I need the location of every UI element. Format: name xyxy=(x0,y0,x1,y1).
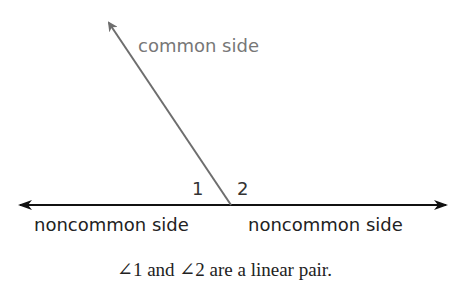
angle-2-label: 2 xyxy=(237,178,248,199)
linear-pair-diagram: common side 1 2 noncommon side noncommon… xyxy=(0,0,465,285)
common-side-label: common side xyxy=(138,35,259,56)
angle-1-label: 1 xyxy=(192,178,203,199)
caption: ∠1 and ∠2 are a linear pair. xyxy=(117,259,332,280)
right-noncommon-side-label: noncommon side xyxy=(248,214,403,235)
left-noncommon-side-label: noncommon side xyxy=(34,214,189,235)
